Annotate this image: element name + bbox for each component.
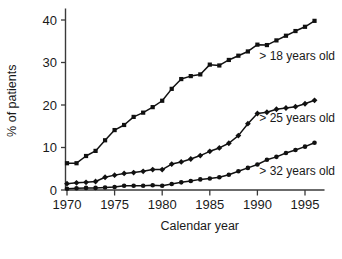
series-label-2: > 25 years old: [259, 111, 335, 125]
x-tick-label: 1995: [291, 197, 320, 212]
data-point-marker: [140, 168, 146, 174]
data-point-marker: [217, 63, 221, 67]
data-point-marker: [131, 170, 137, 176]
data-point-marker: [93, 186, 98, 191]
data-point-marker: [255, 43, 259, 47]
data-point-marker: [303, 25, 307, 29]
data-point-marker: [312, 97, 318, 103]
data-point-marker: [188, 156, 194, 162]
data-point-marker: [189, 74, 193, 78]
data-point-marker: [141, 111, 145, 115]
data-point-marker: [198, 72, 202, 76]
data-point-marker: [284, 34, 288, 38]
data-point-marker: [293, 104, 299, 110]
data-point-marker: [74, 180, 80, 186]
data-point-marker: [236, 54, 240, 58]
data-point-marker: [169, 182, 174, 187]
y-tick-label: 10: [43, 140, 57, 155]
data-point-marker: [274, 155, 279, 160]
data-point-marker: [102, 174, 108, 180]
data-point-marker: [303, 144, 308, 149]
data-point-marker: [122, 183, 127, 188]
y-tick-label: 40: [43, 13, 57, 28]
data-point-marker: [312, 141, 317, 146]
data-point-marker: [65, 186, 70, 191]
y-tick-label: 20: [43, 98, 57, 113]
data-point-marker: [170, 87, 174, 91]
data-point-marker: [265, 158, 270, 163]
line-chart: 010203040197019751980198519901995 Calend…: [0, 0, 342, 259]
data-point-marker: [93, 179, 99, 185]
y-axis-title: % of patients: [5, 65, 19, 137]
series-label-3: > 32 years old: [259, 164, 335, 178]
data-point-marker: [122, 123, 126, 127]
data-point-marker: [265, 43, 269, 47]
data-point-marker: [197, 153, 203, 159]
data-point-marker: [179, 180, 184, 185]
data-point-marker: [121, 171, 127, 177]
series-label-1: > 18 years old: [259, 49, 335, 63]
data-point-marker: [84, 154, 88, 158]
data-point-marker: [236, 169, 241, 174]
data-point-marker: [302, 101, 308, 107]
data-point-marker: [141, 183, 146, 188]
data-point-marker: [208, 63, 212, 67]
x-tick-label: 1970: [53, 197, 82, 212]
data-point-marker: [113, 128, 117, 132]
data-point-marker: [103, 138, 107, 142]
x-tick-label: 1990: [243, 197, 272, 212]
data-point-marker: [246, 166, 251, 171]
data-point-marker: [151, 105, 155, 109]
chart-container: 010203040197019751980198519901995 Calend…: [0, 0, 342, 259]
data-point-marker: [293, 148, 298, 153]
data-point-marker: [227, 172, 232, 177]
data-point-marker: [103, 185, 108, 190]
data-point-marker: [83, 179, 89, 185]
data-point-marker: [207, 148, 213, 154]
data-point-marker: [246, 49, 250, 53]
data-point-marker: [293, 29, 297, 33]
data-point-marker: [74, 161, 78, 165]
data-point-marker: [178, 159, 184, 165]
data-point-marker: [150, 167, 156, 173]
x-tick-label: 1980: [148, 197, 177, 212]
data-point-marker: [112, 185, 117, 190]
data-point-marker: [188, 179, 193, 184]
data-point-marker: [217, 175, 222, 180]
y-tick-label: 0: [50, 183, 57, 198]
x-axis-title: Calendar year: [161, 219, 240, 233]
data-point-marker: [112, 172, 118, 178]
data-point-marker: [93, 149, 97, 153]
data-point-marker: [65, 161, 69, 165]
x-tick-label: 1975: [100, 197, 129, 212]
x-tick-label: 1985: [195, 197, 224, 212]
data-point-marker: [216, 145, 222, 151]
data-point-marker: [84, 186, 89, 191]
data-point-marker: [160, 99, 164, 103]
data-point-marker: [312, 19, 316, 23]
data-point-marker: [284, 151, 289, 156]
y-tick-label: 30: [43, 55, 57, 70]
data-point-marker: [208, 176, 213, 181]
data-point-marker: [132, 115, 136, 119]
data-point-marker: [227, 58, 231, 62]
data-point-marker: [179, 77, 183, 81]
data-point-marker: [198, 177, 203, 182]
data-point-marker: [150, 183, 155, 188]
data-point-marker: [74, 186, 79, 191]
data-point-marker: [131, 183, 136, 188]
data-point-marker: [274, 38, 278, 42]
data-point-marker: [160, 183, 165, 188]
